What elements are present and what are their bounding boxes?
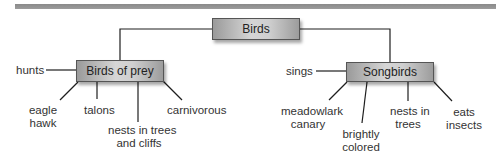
branch-node-label: Songbirds xyxy=(363,65,417,79)
attribute-eats-insects: eats insects xyxy=(446,106,482,132)
attribute-eagle-hawk: eagle hawk xyxy=(28,104,58,130)
branch-node-birds-of-prey: Birds of prey xyxy=(76,60,164,82)
root-node-birds: Birds xyxy=(212,18,300,40)
root-node-label: Birds xyxy=(242,22,269,36)
attribute-hunts: hunts xyxy=(16,64,44,77)
attribute-nests-in-trees-and-cliffs: nests in trees and cliffs xyxy=(108,124,170,150)
attribute-sings: sings xyxy=(286,65,313,78)
attribute-meadowlark-canary: meadowlark canary xyxy=(281,105,335,131)
attribute-talons: talons xyxy=(84,104,115,117)
branch-node-label: Birds of prey xyxy=(86,64,153,78)
attribute-brightly-colored: brightly colored xyxy=(338,128,384,154)
attribute-carnivorous: carnivorous xyxy=(167,104,226,117)
branch-node-songbirds: Songbirds xyxy=(346,62,434,82)
attribute-nests-in-trees: nests in trees xyxy=(390,105,426,131)
